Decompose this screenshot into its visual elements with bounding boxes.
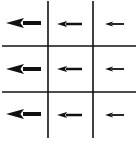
left-arrow-icon	[6, 64, 41, 74]
left-arrow-icon	[6, 18, 41, 28]
left-arrow-icon	[6, 109, 41, 119]
left-arrow-icon	[57, 21, 82, 27]
left-arrow-icon	[105, 22, 124, 27]
arrows	[6, 18, 124, 119]
left-arrow-icon	[57, 66, 82, 72]
vector-field-diagram	[0, 0, 137, 151]
left-arrow-icon	[105, 113, 124, 118]
left-arrow-icon	[105, 67, 124, 72]
left-arrow-icon	[57, 112, 82, 118]
